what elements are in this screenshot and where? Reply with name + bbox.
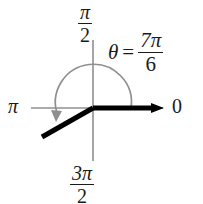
seven-pi-numerator: 7π (138, 30, 163, 53)
axis-label-pi-over-2: π 2 (78, 2, 92, 45)
six-denominator: 6 (138, 53, 163, 75)
three-pi-over-2-denominator: 2 (70, 185, 94, 204)
angle-equation: θ = 7π 6 (108, 30, 163, 75)
seven-pi-over-six-fraction: 7π 6 (138, 30, 163, 75)
three-pi-over-2-numerator: 3π (70, 163, 94, 185)
equals-sign: = (122, 42, 134, 63)
theta-symbol: θ (108, 42, 118, 63)
pi-over-2-numerator: π (78, 2, 92, 24)
axis-label-zero: 0 (172, 96, 182, 116)
axis-label-pi: π (8, 96, 18, 116)
axis-label-3pi-over-2: 3π 2 (70, 163, 94, 204)
pi-over-2-denominator: 2 (78, 24, 92, 45)
